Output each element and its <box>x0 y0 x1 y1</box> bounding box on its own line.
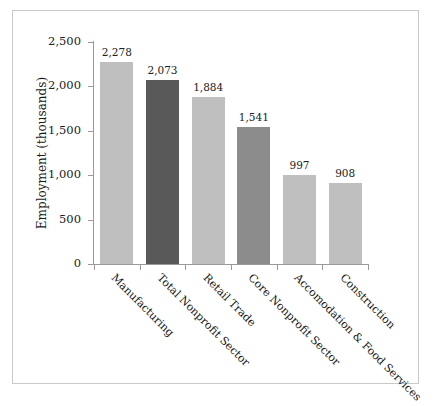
bar-value-label: 1,541 <box>225 112 282 123</box>
y-axis-tick-label: 500 <box>31 214 81 226</box>
y-axis-tick <box>88 42 93 43</box>
bar <box>237 127 270 264</box>
x-axis-tick <box>277 265 278 270</box>
bar-value-label: 2,278 <box>88 47 145 58</box>
y-axis-tick <box>88 264 93 265</box>
x-axis-tick <box>231 265 232 270</box>
x-axis-tick <box>322 265 323 270</box>
y-axis-tick <box>88 86 93 87</box>
bar-value-label: 908 <box>317 168 374 179</box>
x-axis-category-label: Core Nonprofit Sector <box>247 272 343 368</box>
y-axis-tick-label: 2,000 <box>31 80 81 92</box>
x-axis-tick <box>94 265 95 270</box>
y-axis-tick-label: 2,500 <box>31 36 81 48</box>
y-axis-tick <box>88 175 93 176</box>
chart-screenshot: Employment (thousands) 05001,0001,5002,0… <box>0 0 433 406</box>
y-axis-tick-label: 1,500 <box>31 125 81 137</box>
x-axis-tick <box>140 265 141 270</box>
bar-value-label: 2,073 <box>134 65 191 76</box>
y-axis-tick <box>88 220 93 221</box>
y-axis-tick <box>88 131 93 132</box>
x-axis-tick <box>185 265 186 270</box>
y-axis-tick-label: 1,000 <box>31 169 81 181</box>
bar <box>146 80 179 264</box>
y-axis-tick-label: 0 <box>31 258 81 270</box>
bar-value-label: 1,884 <box>180 82 237 93</box>
bar <box>100 62 133 264</box>
bar <box>283 175 316 264</box>
x-axis-category-label: Total Nonprofit Sector <box>155 272 251 368</box>
figure-frame: Employment (thousands) 05001,0001,5002,0… <box>12 10 419 384</box>
bar <box>329 183 362 264</box>
bar <box>192 97 225 264</box>
y-axis-title: Employment (thousands) <box>33 42 51 264</box>
x-axis-tick <box>368 265 369 270</box>
